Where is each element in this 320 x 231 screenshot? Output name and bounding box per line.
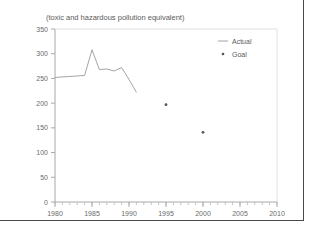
x-tick-label: 1985 xyxy=(84,210,100,217)
goal-data-point xyxy=(202,131,205,134)
x-tick-label: 1980 xyxy=(47,210,63,217)
y-tick-label: 200 xyxy=(36,100,48,107)
x-tick-label: 2010 xyxy=(269,210,285,217)
y-tick-label: 350 xyxy=(36,26,48,33)
y-tick-label: 100 xyxy=(36,149,48,156)
x-axis-ticks xyxy=(55,202,277,207)
y-axis-ticks xyxy=(51,29,55,202)
goal-data-point xyxy=(165,103,168,106)
legend-dot-swatch-icon xyxy=(222,53,225,56)
chart-title: (toxic and hazardous pollution equivalen… xyxy=(46,13,185,22)
y-axis-tick-labels: 350 300 250 200 150 100 50 0 xyxy=(36,26,48,206)
x-tick-label: 1995 xyxy=(158,210,174,217)
x-tick-label: 1990 xyxy=(121,210,137,217)
y-tick-label: 0 xyxy=(44,199,48,206)
y-tick-label: 250 xyxy=(36,75,48,82)
y-tick-label: 50 xyxy=(40,174,48,181)
legend-label-actual: Actual xyxy=(232,38,252,45)
x-tick-label: 2000 xyxy=(195,210,211,217)
line-chart: (toxic and hazardous pollution equivalen… xyxy=(0,0,320,231)
legend-label-goal: Goal xyxy=(232,51,247,58)
x-tick-label: 2005 xyxy=(232,210,248,217)
y-tick-label: 150 xyxy=(36,124,48,131)
x-axis-tick-labels: 1980 1985 1990 1995 2000 2005 2010 xyxy=(47,210,285,217)
chart-figure: (toxic and hazardous pollution equivalen… xyxy=(0,0,320,231)
y-tick-label: 300 xyxy=(36,50,48,57)
